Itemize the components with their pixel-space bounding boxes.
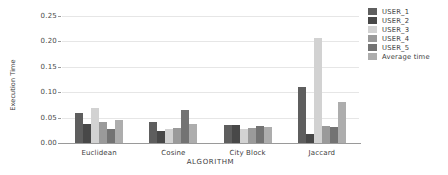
bar <box>306 134 314 143</box>
legend-item: USER_3 <box>368 26 430 33</box>
bar <box>181 110 189 143</box>
bar <box>256 126 264 143</box>
y-axis-tick-mark <box>58 16 61 17</box>
x-axis-tick-label: Cosine <box>161 149 185 157</box>
bar <box>298 87 306 143</box>
legend-swatch-icon <box>368 53 377 60</box>
bar-group: Cosine <box>136 16 210 143</box>
legend-item: USER_4 <box>368 35 430 42</box>
y-axis-tick-label: 0.10 <box>41 88 57 96</box>
plot-area: 0.000.050.100.150.200.25 EuclideanCosine… <box>62 16 359 143</box>
bar <box>240 129 248 143</box>
legend-swatch-icon <box>368 8 377 15</box>
x-axis-line <box>58 143 361 144</box>
bar <box>314 38 322 143</box>
legend-label: USER_2 <box>382 17 409 25</box>
bar <box>338 102 346 143</box>
x-axis-tick-label: Jaccard <box>309 149 336 157</box>
bar <box>173 128 181 143</box>
y-axis-tick-label: 0.00 <box>41 139 57 147</box>
legend-item: Average time <box>368 53 430 60</box>
legend-swatch-icon <box>368 35 377 42</box>
legend-item: USER_1 <box>368 8 430 15</box>
legend-label: USER_5 <box>382 44 409 52</box>
legend-label: USER_4 <box>382 35 409 43</box>
y-axis-label-text: Execution Time <box>9 59 17 110</box>
bar <box>75 113 83 143</box>
bar <box>83 124 91 143</box>
bar-chart-figure: Execution Time 0.000.050.100.150.200.25 … <box>0 0 448 175</box>
y-axis-tick-label: 0.05 <box>41 114 57 122</box>
y-axis-tick-mark <box>58 41 61 42</box>
y-axis-tick-mark <box>58 67 61 68</box>
x-axis-label: ALGORITHM <box>62 158 359 166</box>
legend-label: Average time <box>382 53 430 61</box>
bars-container <box>285 16 359 143</box>
legend-swatch-icon <box>368 44 377 51</box>
bar <box>330 127 338 143</box>
bar <box>248 128 256 143</box>
bar <box>165 129 173 143</box>
x-axis-tick-label: City Block <box>229 149 265 157</box>
bar-group: Jaccard <box>285 16 359 143</box>
bars-container <box>62 16 136 143</box>
legend-swatch-icon <box>368 26 377 33</box>
bars-container <box>211 16 285 143</box>
y-axis-tick-label: 0.25 <box>41 12 57 20</box>
bar <box>264 127 272 143</box>
y-axis-tick-mark <box>58 118 61 119</box>
legend-label: USER_3 <box>382 26 409 34</box>
legend: USER_1USER_2USER_3USER_4USER_5Average ti… <box>368 8 430 60</box>
bar <box>115 120 123 143</box>
bar <box>107 129 115 143</box>
legend-item: USER_2 <box>368 17 430 24</box>
legend-swatch-icon <box>368 17 377 24</box>
legend-label: USER_1 <box>382 8 409 16</box>
y-axis-tick-mark <box>58 92 61 93</box>
bar-group: Euclidean <box>62 16 136 143</box>
y-axis-tick-label: 0.20 <box>41 37 57 45</box>
bar-group: City Block <box>211 16 285 143</box>
bar <box>189 124 197 143</box>
bar <box>157 131 165 143</box>
bar <box>322 126 330 143</box>
legend-item: USER_5 <box>368 44 430 51</box>
bar <box>224 125 232 143</box>
bar <box>99 122 107 143</box>
y-axis-tick-label: 0.15 <box>41 63 57 71</box>
bars-container <box>136 16 210 143</box>
y-axis-label: Execution Time <box>6 42 20 128</box>
bar <box>149 122 157 143</box>
bar <box>232 125 240 143</box>
x-axis-tick-label: Euclidean <box>81 149 116 157</box>
bar <box>91 108 99 143</box>
